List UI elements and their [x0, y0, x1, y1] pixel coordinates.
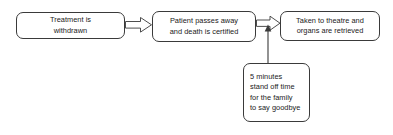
node-line: Patient passes away	[170, 16, 238, 26]
node-line: organs are retrieved	[297, 26, 364, 36]
node-treatment-withdrawn: Treatment is withdrawn	[16, 12, 125, 39]
node-line: for the family	[250, 93, 293, 103]
node-line: and death is certified	[170, 27, 239, 37]
diagram-canvas: Treatment is withdrawn Patient passes aw…	[0, 0, 393, 135]
node-line: Taken to theatre and	[296, 16, 364, 26]
connector-treatment-to-death	[126, 18, 152, 33]
node-line: to say goodbye	[250, 103, 300, 113]
node-standoff-time: 5 minutes stand off time for the family …	[243, 63, 310, 122]
node-theatre-organs: Taken to theatre and organs are retrieve…	[280, 11, 380, 41]
node-line: withdrawn	[54, 26, 87, 36]
node-line: Treatment is	[50, 15, 91, 25]
node-death-certified: Patient passes away and death is certifi…	[152, 11, 256, 42]
node-line: stand off time	[250, 82, 295, 92]
connector-standoff-to-flow	[265, 25, 272, 63]
node-line: 5 minutes	[250, 72, 282, 82]
